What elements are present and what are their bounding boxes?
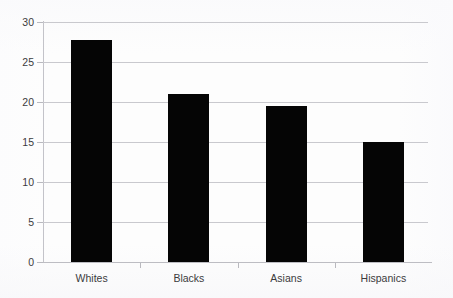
bar-asians (266, 106, 307, 262)
y-axis-label: 30 (0, 17, 34, 28)
y-axis-label: 25 (0, 57, 34, 68)
bar-whites (71, 40, 112, 262)
x-tick (335, 263, 336, 268)
x-tick (140, 263, 141, 268)
y-axis-label: 0 (0, 257, 34, 268)
x-tick (238, 263, 239, 268)
x-axis-label-asians: Asians (270, 272, 302, 284)
plot-area (43, 22, 432, 262)
bar-blacks (168, 94, 209, 262)
y-axis-label: 15 (0, 137, 34, 148)
gridline-30 (43, 22, 428, 23)
x-axis-label-hispanics: Hispanics (361, 272, 407, 284)
x-axis-label-whites: Whites (76, 272, 108, 284)
y-axis-label: 20 (0, 97, 34, 108)
bar-hispanics (363, 142, 404, 262)
x-axis-label-blacks: Blacks (173, 272, 204, 284)
y-axis-label: 10 (0, 177, 34, 188)
y-axis-label: 5 (0, 217, 34, 228)
bar-chart: 051015202530 WhitesBlacksAsiansHispanics (0, 0, 453, 298)
